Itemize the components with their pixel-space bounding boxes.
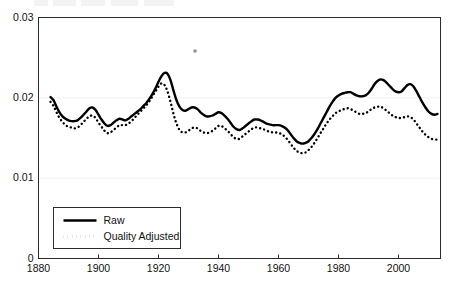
y-axis-tick-label: 0.01 bbox=[13, 171, 34, 183]
series-line-quality-adjusted bbox=[51, 83, 438, 153]
x-axis-tick-label: 1980 bbox=[327, 262, 351, 274]
x-axis-tick-label: 2000 bbox=[387, 262, 411, 274]
chart-container: 00.010.020.03188019001920194019601980200… bbox=[0, 0, 456, 292]
y-axis-tick-label: 0.02 bbox=[13, 91, 34, 103]
x-axis-tick-label: 1960 bbox=[267, 262, 291, 274]
x-axis-tick-label: 1920 bbox=[147, 262, 171, 274]
y-axis-tick-label: 0.03 bbox=[13, 11, 34, 23]
legend-label: Quality Adjusted bbox=[104, 230, 180, 242]
x-axis-tick-label: 1900 bbox=[87, 262, 111, 274]
line-chart: 00.010.020.03188019001920194019601980200… bbox=[0, 0, 456, 292]
scan-artifact-speck bbox=[194, 50, 197, 53]
x-axis-tick-label: 1880 bbox=[27, 262, 51, 274]
legend-label: Raw bbox=[104, 214, 125, 226]
cropped-title-remnant bbox=[34, 0, 204, 6]
x-axis-tick-label: 1940 bbox=[207, 262, 231, 274]
chart-legend: RawQuality Adjusted bbox=[54, 208, 181, 249]
